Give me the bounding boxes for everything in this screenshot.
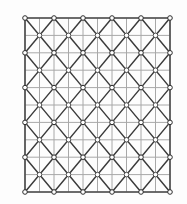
lattice-node-centre bbox=[124, 68, 129, 73]
lattice-node-centre bbox=[66, 68, 71, 73]
lattice-node-centre bbox=[37, 138, 42, 143]
lattice-node-corner bbox=[168, 51, 173, 56]
lattice-node-corner bbox=[52, 155, 57, 160]
lattice-node-corner bbox=[23, 16, 28, 21]
lattice-node-corner bbox=[110, 16, 115, 21]
lattice-node-centre bbox=[124, 33, 129, 38]
lattice-node-centre bbox=[95, 138, 100, 143]
lattice-node-corner bbox=[81, 16, 86, 21]
lattice-node-corner bbox=[110, 85, 115, 90]
lattice-node-corner bbox=[23, 120, 28, 125]
lattice-node-corner bbox=[52, 190, 57, 195]
lattice-node-corner bbox=[168, 155, 173, 160]
lattice-node-centre bbox=[153, 68, 158, 73]
lattice-node-corner bbox=[168, 16, 173, 21]
lattice-node-corner bbox=[81, 85, 86, 90]
lattice-node-corner bbox=[168, 190, 173, 195]
lattice-node-corner bbox=[52, 51, 57, 56]
lattice-node-corner bbox=[110, 190, 115, 195]
lattice-node-centre bbox=[66, 172, 71, 177]
lattice-diagram-svg bbox=[0, 0, 187, 204]
lattice-node-centre bbox=[66, 103, 71, 108]
lattice-node-centre bbox=[124, 172, 129, 177]
lattice-node-corner bbox=[23, 51, 28, 56]
lattice-node-corner bbox=[81, 120, 86, 125]
lattice-node-centre bbox=[66, 138, 71, 143]
lattice-node-centre bbox=[95, 103, 100, 108]
lattice-node-centre bbox=[37, 33, 42, 38]
lattice-node-centre bbox=[95, 172, 100, 177]
lattice-node-corner bbox=[139, 120, 144, 125]
lattice-node-centre bbox=[37, 68, 42, 73]
lattice-node-centre bbox=[95, 68, 100, 73]
lattice-node-centre bbox=[124, 103, 129, 108]
lattice-node-corner bbox=[139, 155, 144, 160]
lattice-node-centre bbox=[37, 172, 42, 177]
lattice-node-corner bbox=[23, 190, 28, 195]
lattice-node-corner bbox=[110, 155, 115, 160]
lattice-node-corner bbox=[23, 155, 28, 160]
lattice-figure bbox=[0, 0, 187, 204]
lattice-node-corner bbox=[81, 155, 86, 160]
lattice-node-corner bbox=[52, 85, 57, 90]
lattice-node-centre bbox=[153, 33, 158, 38]
lattice-node-centre bbox=[66, 33, 71, 38]
lattice-node-corner bbox=[110, 120, 115, 125]
lattice-node-corner bbox=[52, 16, 57, 21]
lattice-node-centre bbox=[153, 138, 158, 143]
lattice-node-centre bbox=[37, 103, 42, 108]
lattice-node-corner bbox=[139, 51, 144, 56]
lattice-node-corner bbox=[52, 120, 57, 125]
lattice-node-corner bbox=[81, 51, 86, 56]
lattice-node-centre bbox=[124, 138, 129, 143]
lattice-node-corner bbox=[139, 85, 144, 90]
lattice-node-corner bbox=[168, 85, 173, 90]
lattice-node-centre bbox=[95, 33, 100, 38]
lattice-node-centre bbox=[153, 103, 158, 108]
lattice-node-corner bbox=[23, 85, 28, 90]
lattice-node-corner bbox=[139, 16, 144, 21]
lattice-node-corner bbox=[81, 190, 86, 195]
lattice-node-corner bbox=[110, 51, 115, 56]
lattice-node-corner bbox=[168, 120, 173, 125]
lattice-node-corner bbox=[139, 190, 144, 195]
lattice-node-centre bbox=[153, 172, 158, 177]
